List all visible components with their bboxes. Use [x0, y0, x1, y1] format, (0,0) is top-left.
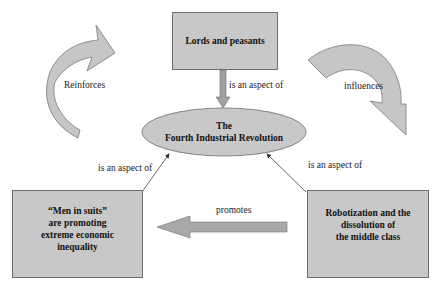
left-line-2: are promoting — [49, 217, 107, 229]
center-line-1: The — [216, 120, 232, 132]
top-to-center-arrow — [216, 70, 230, 108]
edge-label-reinforces: Reinforces — [64, 80, 105, 90]
right-line-2: dissolution of — [341, 219, 395, 231]
edge-label-right-to-center: is an aspect of — [308, 160, 362, 170]
edge-label-top-to-center: is an aspect of — [229, 80, 283, 90]
left-line-1: “Men in suits” — [48, 205, 107, 217]
center-line-2: Fourth Industrial Revolution — [165, 132, 283, 144]
left-line-4: inequality — [57, 241, 98, 253]
right-line-3: the middle class — [336, 231, 400, 243]
node-lords-and-peasants-label: Lords and peasants — [185, 35, 264, 47]
node-robotization: Robotization and the dissolution of the … — [307, 190, 429, 278]
node-fourth-industrial-revolution: The Fourth Industrial Revolution — [142, 108, 306, 156]
node-men-in-suits: “Men in suits” are promoting extreme eco… — [12, 190, 143, 278]
right-line-1: Robotization and the — [326, 207, 411, 219]
right-to-center-arrow — [267, 154, 306, 192]
edge-label-left-to-center: is an aspect of — [98, 163, 152, 173]
promotes-arrow — [157, 216, 287, 238]
edge-label-influences: influences — [344, 81, 383, 91]
left-to-center-arrow — [142, 154, 169, 192]
edge-label-promotes: promotes — [216, 205, 251, 215]
node-lords-and-peasants: Lords and peasants — [172, 12, 278, 70]
left-line-3: extreme economic — [41, 229, 114, 241]
